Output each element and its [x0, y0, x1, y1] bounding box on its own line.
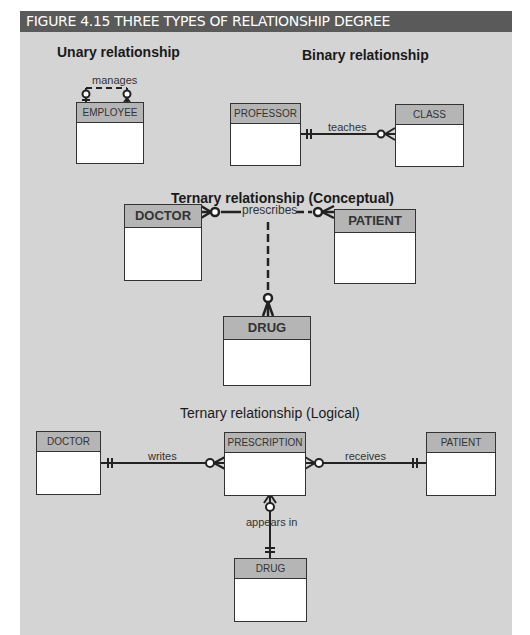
entity-prescription: PRESCRIPTION: [224, 432, 306, 496]
entity-name: EMPLOYEE: [77, 103, 143, 123]
ternary-conceptual-relationship-label: prescribes: [242, 203, 297, 217]
entity-professor: PROFESSOR: [230, 103, 301, 166]
entity-patient-logical: PATIENT: [426, 432, 496, 496]
unary-relationship-label: manages: [92, 74, 137, 86]
ternary-logical-caption: Ternary relationship (Logical): [180, 405, 360, 421]
entity-doctor-logical: DOCTOR: [36, 431, 101, 495]
entity-name: DOCTOR: [125, 205, 201, 228]
logical-writes-label: writes: [148, 450, 177, 462]
entity-name: PRESCRIPTION: [225, 433, 305, 453]
entity-name: DRUG: [224, 317, 310, 340]
entity-name: PATIENT: [335, 210, 415, 233]
ternary-conceptual-connector: [201, 206, 334, 316]
entity-drug-logical: DRUG: [234, 558, 307, 622]
entity-doctor-conceptual: DOCTOR: [124, 204, 202, 281]
entity-name: PROFESSOR: [231, 104, 300, 124]
entity-name: DOCTOR: [37, 432, 100, 452]
entity-class: CLASS: [395, 104, 464, 167]
entity-drug-conceptual: DRUG: [223, 316, 311, 386]
entity-name: DRUG: [235, 559, 306, 579]
binary-relationship-label: teaches: [328, 121, 367, 133]
entity-name: PATIENT: [427, 433, 495, 453]
entity-name: CLASS: [396, 105, 463, 125]
logical-appears-in-label: appears in: [246, 516, 297, 528]
unary-caption: Unary relationship: [57, 44, 180, 60]
entity-employee: EMPLOYEE: [76, 102, 144, 164]
binary-caption: Binary relationship: [302, 47, 429, 63]
entity-patient-conceptual: PATIENT: [334, 209, 416, 284]
logical-receives-label: receives: [345, 450, 386, 462]
